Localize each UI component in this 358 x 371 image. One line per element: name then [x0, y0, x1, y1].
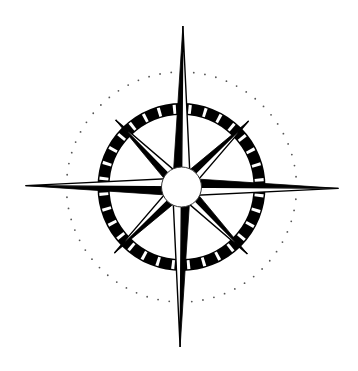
dot: [282, 241, 284, 243]
dot: [277, 123, 279, 125]
dot: [91, 258, 93, 260]
dot: [159, 73, 161, 75]
dot: [295, 176, 297, 178]
dot: [294, 165, 296, 167]
dot: [127, 84, 129, 86]
compass-rose-canvas: [0, 0, 358, 371]
dot: [100, 104, 102, 106]
dot: [138, 79, 140, 81]
dot: [68, 163, 70, 165]
dot: [244, 282, 246, 284]
dot: [234, 288, 236, 290]
dot: [92, 112, 94, 114]
dot: [287, 143, 289, 145]
dot: [204, 74, 206, 76]
dot: [261, 268, 263, 270]
dot: [68, 208, 70, 210]
dot: [170, 72, 172, 74]
dot: [270, 114, 272, 116]
dot: [80, 131, 82, 133]
center-circle: [162, 167, 202, 207]
dot: [74, 229, 76, 231]
dot: [226, 80, 228, 82]
dot: [291, 154, 293, 156]
center-hub: [162, 167, 202, 207]
dot: [66, 196, 68, 198]
dot: [99, 267, 101, 269]
dot: [290, 220, 292, 222]
dot: [245, 91, 247, 93]
dot: [126, 287, 128, 289]
dot: [236, 85, 238, 87]
dot: [213, 296, 215, 298]
dot: [215, 76, 217, 78]
dot: [84, 249, 86, 251]
dot: [202, 299, 204, 301]
dot: [157, 299, 159, 301]
dot: [86, 121, 88, 123]
dot: [263, 105, 265, 107]
dot: [276, 251, 278, 253]
dot: [254, 98, 256, 100]
dot: [70, 219, 72, 221]
dot: [136, 292, 138, 294]
dot: [107, 274, 109, 276]
dot: [224, 293, 226, 295]
dot: [286, 231, 288, 233]
dot: [71, 152, 73, 154]
dot: [79, 239, 81, 241]
dot: [191, 301, 193, 303]
dot: [148, 76, 150, 78]
dot: [293, 210, 295, 212]
dot: [269, 260, 271, 262]
compass-rose: [0, 0, 358, 371]
dot: [116, 281, 118, 283]
dot: [75, 141, 77, 143]
dot: [168, 300, 170, 302]
dot: [66, 174, 68, 176]
dot: [282, 133, 284, 135]
dot: [146, 296, 148, 298]
dot: [118, 90, 120, 92]
dot: [253, 276, 255, 278]
dot: [193, 72, 195, 74]
dot: [108, 97, 110, 99]
dot: [295, 198, 297, 200]
